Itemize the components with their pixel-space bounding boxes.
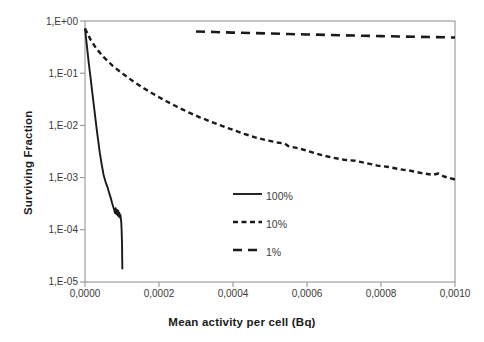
x-tick-label: 0,0010 — [425, 288, 484, 299]
plot-area-border — [85, 21, 455, 282]
y-tick-label: 1,E-04 — [22, 224, 78, 235]
plot-frame — [85, 21, 455, 282]
x-tick-label: 0,0002 — [129, 288, 189, 299]
legend-label-1: 1% — [266, 246, 281, 258]
x-tick-label: 0,0006 — [277, 288, 337, 299]
y-tick-label: 1,E+00 — [22, 16, 78, 27]
legend-label-10: 10% — [266, 218, 287, 230]
x-tick-label: 0,0000 — [55, 288, 115, 299]
y-axis-title: Surviving Fraction — [22, 110, 34, 215]
y-tick-label: 1,E-01 — [22, 68, 78, 79]
chart-figure: 1,E+00 1,E-01 1,E-02 1,E-03 1,E-04 1,E-0… — [0, 0, 484, 342]
y-tick-label: 1,E-05 — [22, 276, 78, 287]
x-axis-tick-marks — [85, 282, 455, 287]
x-tick-label: 0,0008 — [351, 288, 411, 299]
y-axis-tick-marks — [80, 21, 85, 282]
x-tick-label: 0,0004 — [203, 288, 263, 299]
legend-label-100: 100% — [266, 190, 293, 202]
x-axis-title: Mean activity per cell (Bq) — [0, 316, 484, 328]
